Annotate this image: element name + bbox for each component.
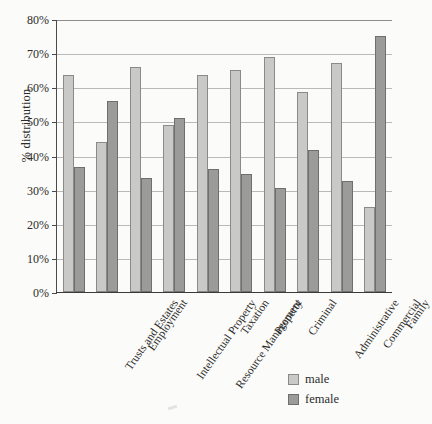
bar-female	[141, 178, 152, 292]
y-axis-tick-label: 30%	[27, 183, 49, 198]
x-axis-label: Criminal	[306, 297, 339, 337]
bar-male	[197, 75, 208, 292]
bar-group	[197, 20, 219, 292]
bar-male	[364, 207, 375, 292]
bar-male	[297, 92, 308, 292]
legend-label: male	[305, 372, 329, 387]
bar-female	[308, 150, 319, 292]
legend-label: female	[305, 392, 339, 407]
y-axis-tick-label: 60%	[27, 81, 49, 96]
legend-item-male[interactable]: male	[288, 372, 398, 387]
bar-male	[264, 57, 275, 292]
bar-female	[174, 118, 185, 292]
y-axis-tick-label: 40%	[27, 149, 49, 164]
y-axis-tick-label: 0%	[33, 286, 49, 301]
legend-item-female[interactable]: female	[288, 392, 398, 407]
bar-male	[163, 125, 174, 292]
bar-female	[375, 36, 386, 292]
bar-male	[63, 75, 74, 292]
legend-swatch-female	[288, 394, 299, 405]
bar-male	[331, 63, 342, 292]
y-axis-tick-label: 50%	[27, 115, 49, 130]
bar-group	[96, 20, 118, 292]
bar-female	[241, 174, 252, 292]
y-axis-tick-label: 70%	[27, 47, 49, 62]
plot-area: 80%70%60%50%40%30%20%10%0%	[56, 20, 392, 293]
y-axis-tick-label: 10%	[27, 251, 49, 266]
y-axis-tick-label: 20%	[27, 217, 49, 232]
bar-male	[130, 67, 141, 292]
bar-group	[264, 20, 286, 292]
bar-female	[275, 188, 286, 292]
bar-female	[107, 101, 118, 292]
bar-group	[364, 20, 386, 292]
legend-swatch-male	[288, 374, 299, 385]
bar-female	[208, 169, 219, 292]
bar-male	[96, 142, 107, 292]
bar-female	[74, 167, 85, 292]
bar-group	[163, 20, 185, 292]
scan-artifact	[168, 405, 177, 411]
bar-group	[331, 20, 353, 292]
y-axis-tick-label: 80%	[27, 13, 49, 28]
chart-legend: malefemale	[288, 372, 398, 412]
bar-groups	[57, 20, 392, 292]
bar-female	[342, 181, 353, 292]
bar-group	[230, 20, 252, 292]
bar-male	[230, 70, 241, 292]
bar-group	[297, 20, 319, 292]
bar-group	[130, 20, 152, 292]
bar-group	[63, 20, 85, 292]
